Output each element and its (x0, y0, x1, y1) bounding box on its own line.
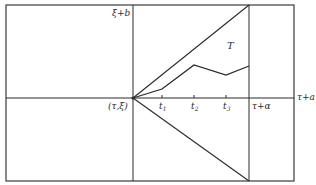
origin-point (132, 97, 135, 100)
label-tau-plus-alpha: τ+α (252, 102, 271, 111)
label-t1-sub: 1 (163, 105, 167, 112)
label-t3-sub: 3 (227, 105, 231, 112)
diagram-canvas: ξ+b (τ,ξ) t1 t2 t3 τ+α τ+a T (0, 0, 316, 185)
label-t3: t3 (223, 102, 230, 112)
diagram-svg (0, 0, 316, 185)
label-xi-plus-b: ξ+b (112, 9, 130, 18)
label-tau-plus-a: τ+a (297, 93, 315, 102)
label-origin: (τ,ξ) (108, 102, 128, 111)
polygonal-path (133, 65, 249, 98)
upper-cone-line (133, 5, 249, 98)
label-region-T: T (227, 41, 234, 51)
label-t2-sub: 2 (195, 105, 199, 112)
label-t2: t2 (191, 102, 198, 112)
label-t1: t1 (159, 102, 166, 112)
